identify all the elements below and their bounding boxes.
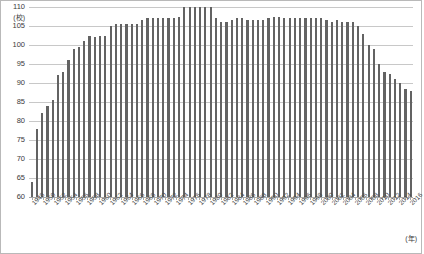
bar <box>383 72 385 197</box>
bar <box>73 49 75 197</box>
bar <box>315 18 317 197</box>
bar <box>141 20 143 197</box>
bar <box>120 24 122 197</box>
bar <box>336 20 338 197</box>
bar <box>410 91 412 197</box>
bar <box>273 17 275 198</box>
bar <box>352 22 354 197</box>
bar <box>125 24 127 197</box>
y-tick-label: 60 <box>17 193 25 201</box>
bar <box>346 22 348 197</box>
bar <box>189 7 191 197</box>
bar <box>88 36 90 198</box>
bar <box>136 24 138 197</box>
bar <box>157 18 159 197</box>
bar <box>341 22 343 197</box>
bar <box>304 18 306 197</box>
bar <box>57 75 59 197</box>
bar <box>215 18 217 197</box>
y-tick-label: 75 <box>17 136 25 144</box>
bar <box>83 41 85 197</box>
bar <box>294 18 296 197</box>
bar <box>46 106 48 197</box>
y-tick-label: 105 <box>12 22 25 30</box>
bar <box>246 20 248 197</box>
bar <box>110 26 112 197</box>
bar <box>52 100 54 197</box>
x-axis-unit-label: (年) <box>405 235 417 242</box>
bar <box>325 20 327 197</box>
plot-area <box>29 7 413 197</box>
bar <box>310 18 312 197</box>
bar <box>368 45 370 197</box>
bar <box>146 18 148 197</box>
bar <box>289 18 291 197</box>
bar <box>99 36 101 198</box>
bar <box>67 60 69 197</box>
bar <box>131 24 133 197</box>
bar <box>104 36 106 198</box>
bar <box>173 18 175 197</box>
bar <box>199 7 201 197</box>
bar <box>78 47 80 197</box>
bar <box>373 49 375 197</box>
y-tick-label: 65 <box>17 174 25 182</box>
bar <box>194 7 196 197</box>
y-tick-label: 90 <box>17 79 25 87</box>
bar <box>94 37 96 197</box>
bar <box>183 7 185 197</box>
bar <box>62 72 64 197</box>
bar <box>225 22 227 197</box>
bar <box>231 20 233 197</box>
y-tick-label: 80 <box>17 117 25 125</box>
bar <box>362 34 364 197</box>
x-axis: 1948195019521954195619581960196219641966… <box>29 197 413 243</box>
bar <box>399 83 401 197</box>
bar <box>331 22 333 197</box>
y-tick-label: 110 <box>13 3 25 11</box>
bar <box>241 18 243 197</box>
bar <box>257 20 259 197</box>
bar <box>152 18 154 197</box>
y-tick-label: 95 <box>17 60 25 68</box>
bar <box>389 74 391 198</box>
bar <box>220 22 222 197</box>
y-axis: (校) 6065707580859095100105110 <box>1 1 29 203</box>
bar <box>31 182 33 197</box>
bar <box>320 18 322 197</box>
bar-series <box>29 7 413 197</box>
bar <box>252 20 254 197</box>
bar <box>167 18 169 197</box>
bar <box>236 18 238 197</box>
bar <box>41 113 43 197</box>
bar-slot <box>408 7 413 197</box>
bar <box>378 64 380 197</box>
y-tick-label: 70 <box>17 155 25 163</box>
bar <box>357 26 359 197</box>
bar <box>267 18 269 197</box>
bar <box>299 18 301 197</box>
bar <box>36 129 38 197</box>
bar <box>162 18 164 197</box>
y-tick-label: 85 <box>17 98 25 106</box>
bar <box>394 79 396 197</box>
bar <box>204 7 206 197</box>
bar <box>178 17 180 198</box>
bar <box>278 17 280 198</box>
y-tick-label: 100 <box>12 41 25 49</box>
bar <box>283 18 285 197</box>
bar <box>210 7 212 197</box>
bar <box>115 24 117 197</box>
bar <box>262 20 264 197</box>
bar <box>404 89 406 197</box>
y-axis-unit-label: (校) <box>13 14 25 21</box>
